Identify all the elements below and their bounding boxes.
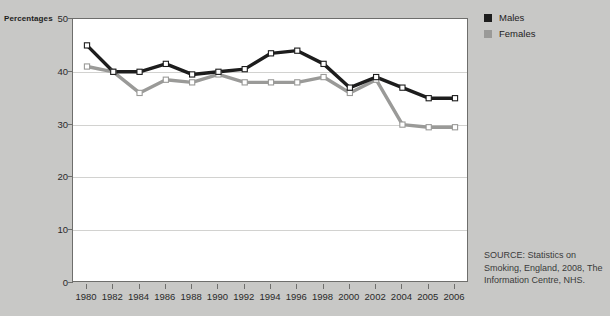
- x-axis-tick-mark: [139, 284, 140, 289]
- data-point-marker: [295, 80, 300, 85]
- x-axis-tick-mark: [454, 284, 455, 289]
- smoking-prevalence-line-chart: Percentages 01020304050 1980198219841986…: [0, 0, 610, 316]
- data-point-marker: [111, 69, 116, 74]
- x-axis-tick-mark: [349, 284, 350, 289]
- x-axis-tick-label: 2005: [417, 291, 438, 302]
- data-point-marker: [242, 80, 247, 85]
- legend-label: Females: [499, 28, 535, 39]
- data-point-marker: [347, 85, 352, 90]
- data-point-marker: [321, 61, 326, 66]
- x-axis-tick-label: 1988: [181, 291, 202, 302]
- data-point-marker: [190, 80, 195, 85]
- x-axis-tick-labels: 1980198219841986198819901992199419961998…: [72, 284, 468, 308]
- series-line-females: [87, 67, 455, 128]
- legend: MalesFemales: [484, 12, 535, 44]
- y-axis-tick-label: 50: [42, 13, 68, 24]
- x-axis-tick-label: 2004: [391, 291, 412, 302]
- data-point-marker: [321, 74, 326, 79]
- x-axis-tick-mark: [217, 284, 218, 289]
- y-axis-tick-label: 40: [42, 65, 68, 76]
- x-axis-tick-label: 1994: [259, 291, 280, 302]
- x-axis-tick-label: 1986: [154, 291, 175, 302]
- data-point-marker: [242, 67, 247, 72]
- y-axis-tick-label: 0: [42, 277, 68, 288]
- legend-label: Males: [499, 12, 524, 23]
- x-axis-tick-label: 2000: [338, 291, 359, 302]
- data-point-marker: [268, 51, 273, 56]
- data-point-marker: [190, 72, 195, 77]
- x-axis-tick-label: 1980: [75, 291, 96, 302]
- data-point-marker: [137, 90, 142, 95]
- x-axis-tick-mark: [401, 284, 402, 289]
- x-axis-tick-mark: [428, 284, 429, 289]
- data-point-marker: [163, 61, 168, 66]
- x-axis-tick-label: 2002: [365, 291, 386, 302]
- x-axis-tick-mark: [112, 284, 113, 289]
- x-axis-tick-mark: [296, 284, 297, 289]
- x-axis-tick-label: 1984: [128, 291, 149, 302]
- series-layer: [73, 19, 469, 283]
- data-point-marker: [400, 122, 405, 127]
- legend-item-males[interactable]: Males: [484, 12, 535, 23]
- data-point-marker: [452, 125, 457, 130]
- data-point-marker: [163, 77, 168, 82]
- data-point-marker: [216, 69, 221, 74]
- x-axis-tick-label: 2006: [443, 291, 464, 302]
- data-point-marker: [84, 43, 89, 48]
- y-axis-tick-labels: 01020304050: [40, 18, 68, 282]
- data-point-marker: [426, 125, 431, 130]
- legend-swatch-icon: [484, 30, 492, 38]
- legend-item-females[interactable]: Females: [484, 28, 535, 39]
- data-point-marker: [426, 96, 431, 101]
- x-axis-tick-label: 1996: [286, 291, 307, 302]
- data-point-marker: [268, 80, 273, 85]
- x-axis-tick-label: 1982: [102, 291, 123, 302]
- y-axis-tick-label: 20: [42, 171, 68, 182]
- x-axis-tick-mark: [86, 284, 87, 289]
- x-axis-tick-mark: [191, 284, 192, 289]
- data-point-marker: [452, 96, 457, 101]
- data-point-marker: [137, 69, 142, 74]
- data-point-marker: [374, 74, 379, 79]
- y-axis-tick-label: 30: [42, 118, 68, 129]
- plot-area: [72, 18, 468, 282]
- x-axis-tick-mark: [165, 284, 166, 289]
- data-point-marker: [84, 64, 89, 69]
- source-note: SOURCE: Statistics on Smoking, England, …: [484, 249, 606, 287]
- legend-swatch-icon: [484, 14, 492, 22]
- x-axis-tick-label: 1992: [233, 291, 254, 302]
- data-point-marker: [347, 90, 352, 95]
- x-axis-tick-mark: [270, 284, 271, 289]
- y-axis-tick-label: 10: [42, 224, 68, 235]
- x-axis-tick-mark: [375, 284, 376, 289]
- x-axis-tick-mark: [323, 284, 324, 289]
- data-point-marker: [295, 48, 300, 53]
- x-axis-tick-mark: [244, 284, 245, 289]
- data-point-marker: [400, 85, 405, 90]
- x-axis-tick-label: 1998: [312, 291, 333, 302]
- x-axis-tick-label: 1990: [207, 291, 228, 302]
